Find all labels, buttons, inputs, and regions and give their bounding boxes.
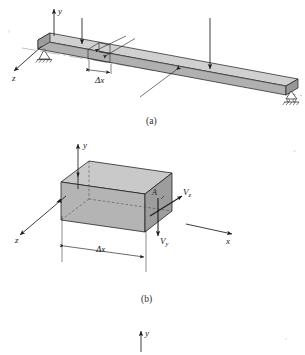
figure-svg <box>0 0 305 355</box>
shear-force-vz-subscript: z <box>189 191 192 198</box>
panel-a-group <box>14 9 303 105</box>
area-label: A <box>152 189 157 197</box>
figure-root: y z Δx (a) y z x A Vz Vy Δx (b) y <box>0 0 305 355</box>
panel-b-group <box>20 144 232 272</box>
panel-b-z-axis <box>20 196 66 235</box>
scan-speck <box>8 30 10 33</box>
panel-a-caption: (a) <box>146 117 157 127</box>
panel-a-z-axis-label: z <box>12 74 16 83</box>
panel-a-z-axis <box>14 46 42 71</box>
beam-leader-line <box>140 70 176 97</box>
panel-b-x-axis <box>186 224 232 234</box>
panel-a-y-axis-label: y <box>58 7 62 16</box>
panel-b-delta-x-label: Δx <box>96 245 105 254</box>
panel-b-x-axis-label: x <box>226 237 230 246</box>
panel-b-y-axis-label: y <box>83 141 87 150</box>
scan-speck <box>285 338 287 340</box>
panel-c-y-axis-label: y <box>145 329 149 338</box>
shear-force-vy-subscript: y <box>166 240 169 247</box>
panel-a-delta-x-label: Δx <box>95 76 104 85</box>
panel-b-z-axis-label: z <box>15 236 19 245</box>
beam-solid <box>38 33 298 95</box>
panel-b-caption: (b) <box>141 295 152 305</box>
shear-force-vz-label: Vz <box>183 188 191 198</box>
shear-force-vy-label: Vy <box>160 237 168 247</box>
scan-speck <box>293 150 296 152</box>
